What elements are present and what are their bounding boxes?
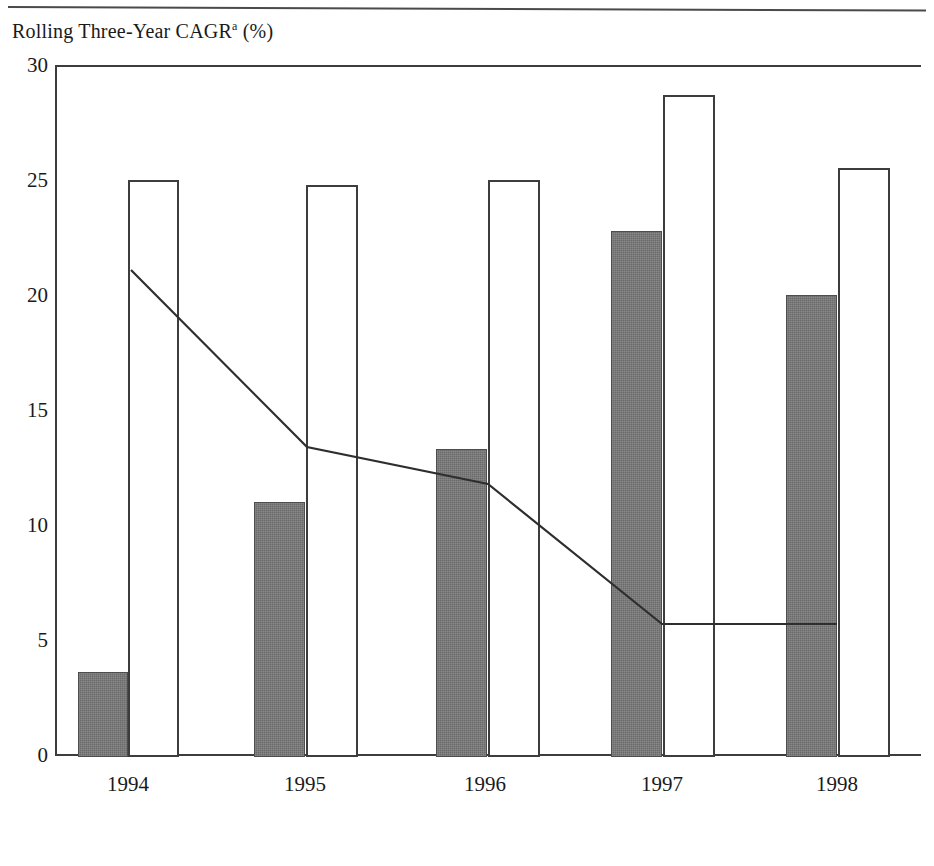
chart-figure: Rolling Three-Year CAGRa (%) 30 25 20 15… bbox=[0, 0, 934, 866]
bar-filled-1998 bbox=[786, 295, 837, 757]
bar-filled-1994 bbox=[78, 672, 128, 757]
y-tick-25: 25 bbox=[6, 170, 48, 191]
y-tick-0: 0 bbox=[6, 745, 48, 766]
bar-filled-1997 bbox=[611, 231, 662, 757]
y-tick-30: 30 bbox=[6, 55, 48, 76]
chart-axis-title: Rolling Three-Year CAGRa (%) bbox=[12, 20, 273, 43]
x-tick-1997: 1997 bbox=[617, 772, 707, 797]
page-top-rule bbox=[8, 6, 926, 12]
y-tick-15: 15 bbox=[6, 400, 48, 421]
y-axis-ticks: 30 25 20 15 10 5 0 bbox=[0, 0, 48, 866]
x-tick-1995: 1995 bbox=[260, 772, 350, 797]
bar-open-1998 bbox=[838, 168, 890, 757]
axis-title-units: (%) bbox=[243, 20, 274, 42]
x-tick-1998: 1998 bbox=[792, 772, 882, 797]
bar-open-1995 bbox=[306, 185, 358, 757]
x-tick-1996: 1996 bbox=[440, 772, 530, 797]
bar-filled-1995 bbox=[254, 502, 305, 757]
bar-open-1996 bbox=[488, 180, 540, 757]
bar-open-1997 bbox=[663, 95, 715, 757]
y-tick-20: 20 bbox=[6, 285, 48, 306]
bar-filled-1996 bbox=[436, 449, 487, 757]
bar-open-1994 bbox=[128, 180, 179, 757]
y-tick-5: 5 bbox=[6, 630, 48, 651]
axis-title-footnote-marker: a bbox=[232, 19, 238, 33]
x-tick-1994: 1994 bbox=[83, 772, 173, 797]
y-tick-10: 10 bbox=[6, 515, 48, 536]
